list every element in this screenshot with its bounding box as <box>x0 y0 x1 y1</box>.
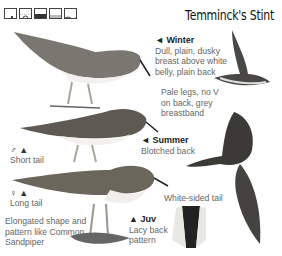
tail-illustration <box>172 206 206 248</box>
juv-annotation: ▲ Juv Lacy back pattern <box>129 214 168 246</box>
summer-annotation: ◄ Summer Blotched back <box>141 135 195 156</box>
shape-annotation: Elongated shape and pattern like Common … <box>5 216 86 248</box>
male-annotation: ♂ ▲ Short tail <box>10 145 44 166</box>
winter-bird-illustration <box>14 32 150 108</box>
female-annotation: ♀ ▲ Long tail <box>10 188 43 209</box>
winter-annotation: ◄ Winter Dull, plain, dusky breast above… <box>155 35 227 77</box>
tail-annotation: White-sided tail <box>164 193 223 204</box>
legs-annotation: Pale legs, no V on back, grey breastband <box>161 87 219 119</box>
